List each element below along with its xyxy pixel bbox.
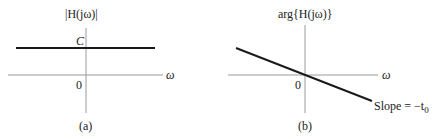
panel-a-origin-label: 0 (76, 79, 82, 91)
panel-a-caption: (a) (79, 120, 92, 132)
slope-text: Slope = −t (374, 99, 424, 113)
panel-b-ylabel: arg{H(jω)} (278, 8, 333, 20)
panel-a-level-label: C (76, 35, 84, 47)
slope-subscript: 0 (424, 105, 429, 115)
panel-a-ylabel: |H(jω)| (65, 8, 98, 20)
panel-b-xlabel: ω (382, 69, 390, 81)
panel-b-slope-label: Slope = −t0 (374, 100, 429, 115)
panel-a-xlabel: ω (166, 69, 174, 81)
panel-b-plot (228, 25, 378, 113)
panel-b-caption: (b) (298, 120, 312, 132)
panel-a-plot (8, 28, 163, 113)
panel-b-origin-label: 0 (295, 79, 301, 91)
